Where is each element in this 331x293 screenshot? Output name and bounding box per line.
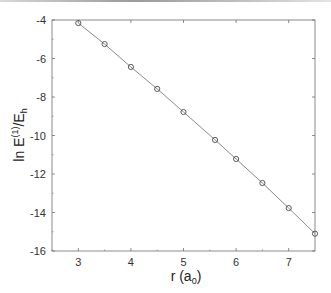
y-tick-label: -4 [36,14,46,26]
axes-frame [52,20,315,251]
data-series [76,20,318,236]
x-tick-label: 5 [180,256,186,268]
y-axis-label: ln E(1)/Eh [10,108,29,161]
x-axis-label: r (a0) [171,268,202,286]
y-tick-label: -14 [30,207,46,219]
y-tick-label: -8 [36,91,46,103]
x-axis-ticks: 34567 [52,20,292,268]
series-line [78,23,315,234]
line-chart: 34567 -4-6-8-10-12-14-16 r (a0) ln E(1)/… [0,0,331,293]
y-tick-label: -16 [30,245,46,257]
y-tick-label: -12 [30,168,46,180]
y-axis-ticks: -4-6-8-10-12-14-16 [30,14,315,257]
x-tick-label: 3 [75,256,81,268]
x-tick-label: 6 [233,256,239,268]
y-tick-label: -10 [30,130,46,142]
y-tick-label: -6 [36,53,46,65]
x-tick-label: 4 [128,256,134,268]
plot-area-box [52,20,315,251]
x-tick-label: 7 [286,256,292,268]
